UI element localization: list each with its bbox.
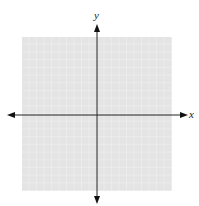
x-axis-right-arrow-icon (180, 112, 188, 118)
x-axis-left-arrow-icon (7, 112, 15, 118)
coordinate-plane (0, 0, 199, 206)
y-axis-label: y (94, 9, 99, 21)
y-axis-up-arrow-icon (94, 24, 100, 32)
y-axis-down-arrow-icon (94, 196, 100, 204)
x-axis-label: x (189, 108, 194, 120)
